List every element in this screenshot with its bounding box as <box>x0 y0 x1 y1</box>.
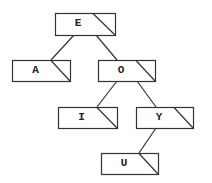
edge-y-u <box>139 128 156 153</box>
node-label-e: E <box>55 13 101 34</box>
node-label-i: I <box>58 107 105 128</box>
node-label-u: U <box>101 153 147 174</box>
node-label-o: O <box>98 60 144 81</box>
tree-diagram: E A O I Y U <box>0 0 212 183</box>
node-label-a: A <box>12 60 59 81</box>
edge-o-y <box>137 81 156 107</box>
edge-e-o <box>96 35 117 60</box>
edge-e-a <box>51 35 74 60</box>
edge-o-i <box>97 81 117 107</box>
node-label-y: Y <box>136 107 182 128</box>
